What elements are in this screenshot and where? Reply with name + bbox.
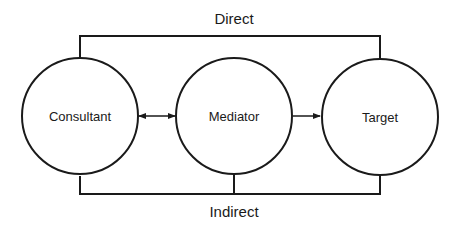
direct-path: Direct (80, 10, 380, 58)
node-mediator: Mediator (176, 58, 292, 174)
node-target: Target (322, 59, 438, 175)
mediator-label: Mediator (209, 109, 260, 124)
node-consultant: Consultant (22, 58, 138, 174)
indirect-label: Indirect (209, 203, 259, 220)
indirect-path: Indirect (80, 175, 380, 220)
target-label: Target (362, 110, 399, 125)
direct-label: Direct (214, 10, 254, 27)
consultation-diagram: Direct Indirect Consultant Mediator Targ… (0, 0, 457, 231)
consultant-label: Consultant (49, 109, 112, 124)
